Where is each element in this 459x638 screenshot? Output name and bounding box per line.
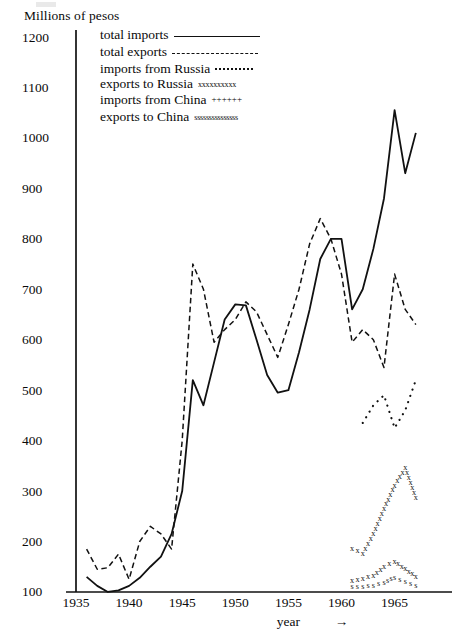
svg-text:s: s [366,581,369,590]
svg-text:x: x [366,572,370,581]
svg-text:x: x [414,572,418,581]
svg-text:s: s [393,573,396,582]
series-total-imports [87,110,416,592]
chart-container: Millions of pesos 1200110010009008007006… [0,0,459,638]
svg-text:s: s [404,577,407,586]
series-markers-exports-to-russia: xxxxxxxxxxxxxxxxxxxxxxxxxxx [350,463,418,558]
svg-text:s: s [356,582,359,591]
svg-text:s: s [372,581,375,590]
plot-area: xxxxxxxxxxxxxxxxxxxxxxxxxxxxxxxxxxxxxxxx… [0,0,459,638]
svg-text:s: s [409,579,412,588]
series-imports-from-russia [363,380,416,428]
svg-text:s: s [377,579,380,588]
svg-text:s: s [414,581,417,590]
svg-text:x: x [387,559,391,568]
svg-text:x: x [355,546,359,555]
svg-text:x: x [414,493,418,502]
svg-text:x: x [382,562,386,571]
svg-text:s: s [361,582,364,591]
svg-text:s: s [398,575,401,584]
svg-text:s: s [351,582,354,591]
svg-text:x: x [350,544,354,553]
